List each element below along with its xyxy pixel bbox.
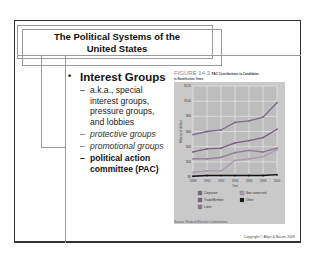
- legend-label: Trade/Member: [204, 198, 224, 202]
- y-tick-label: $20: [186, 160, 191, 164]
- sub-bullet-protective: – protective groups: [68, 129, 178, 140]
- sub-text: promotional groups: [90, 141, 164, 151]
- data-point: [276, 149, 278, 151]
- sub-text: pressure groups,: [90, 106, 178, 117]
- figure: FIGURE 14.3 PAC Contributions to Candida…: [174, 70, 286, 81]
- data-point: [220, 170, 222, 172]
- y-tick-label: $40: [186, 145, 191, 149]
- y-tick-label: $80: [186, 114, 191, 118]
- figure-label: FIGURE 14.3: [174, 70, 210, 76]
- slide-title: The Political Systems of the United Stat…: [22, 31, 212, 55]
- legend-label: Corporate: [204, 191, 218, 195]
- data-point: [262, 175, 264, 177]
- x-tick-label: 1996: [246, 179, 253, 183]
- line-chart: $0$20$40$60$80$100$120198819901992199419…: [174, 82, 285, 224]
- bullet-label: Interest Groups: [80, 71, 166, 83]
- legend-swatch: [240, 191, 244, 195]
- title-line-1: The Political Systems of the: [22, 31, 212, 43]
- data-point: [234, 142, 236, 144]
- data-point: [248, 175, 250, 177]
- legend-label: Labor: [204, 205, 212, 209]
- data-point: [276, 128, 278, 130]
- data-point: [262, 137, 264, 139]
- y-axis-label: Millions of dollars: [179, 119, 183, 143]
- data-point: [248, 140, 250, 142]
- data-point: [276, 102, 278, 104]
- sub-bullet-pac: – political action committee (PAC): [68, 153, 178, 174]
- legend-swatch: [198, 198, 202, 202]
- data-point: [220, 175, 222, 177]
- data-point: [220, 156, 222, 158]
- data-point: [234, 159, 236, 161]
- dash-marker: –: [80, 141, 85, 152]
- x-tick-label: 1998: [260, 179, 267, 183]
- figure-source: Source: Federal Election Commission.: [174, 220, 228, 224]
- data-point: [220, 129, 222, 131]
- bullet-interest-groups: • Interest Groups: [68, 71, 178, 83]
- sub-bullet-promotional: – promotional groups: [68, 141, 178, 152]
- data-point: [234, 122, 236, 124]
- x-tick-label: 2000: [274, 179, 281, 183]
- legend-label: Other: [246, 198, 254, 202]
- data-point: [206, 148, 208, 150]
- figure-subtitle: in Nonelection Years: [174, 77, 286, 81]
- data-point: [262, 156, 264, 158]
- x-tick-label: 1988: [190, 179, 197, 183]
- sub-text: protective groups: [90, 129, 156, 139]
- data-point: [262, 151, 264, 153]
- y-tick-label: $120: [184, 84, 191, 88]
- bullet-marker: •: [68, 71, 71, 81]
- data-point: [234, 175, 236, 177]
- side-box: [41, 55, 66, 148]
- data-point: [248, 150, 250, 152]
- legend-swatch: [198, 205, 202, 209]
- data-point: [192, 134, 194, 136]
- x-tick-label: 1992: [218, 179, 225, 183]
- sub-bullet-aka: – a.k.a., special interest groups, press…: [68, 85, 178, 127]
- sub-text: interest groups,: [90, 96, 178, 107]
- sub-text: committee (PAC): [90, 164, 178, 175]
- sub-text: and lobbies: [90, 117, 178, 128]
- x-tick-label: 1994: [232, 179, 239, 183]
- bullet-list: • Interest Groups – a.k.a., special inte…: [68, 71, 178, 176]
- data-point: [192, 172, 194, 174]
- data-point: [206, 131, 208, 133]
- y-tick-label: $60: [186, 130, 191, 134]
- chart-panel: $0$20$40$60$80$100$120198819901992199419…: [174, 82, 285, 224]
- data-point: [220, 147, 222, 149]
- data-point: [206, 175, 208, 177]
- title-line-2: United States: [22, 43, 212, 55]
- data-point: [248, 120, 250, 122]
- dash-marker: –: [80, 85, 85, 96]
- sub-text: a.k.a., special: [90, 85, 178, 96]
- data-point: [276, 174, 278, 176]
- data-point: [192, 158, 194, 160]
- data-point: [206, 170, 208, 172]
- legend-swatch: [240, 198, 244, 202]
- vertical-rule: [65, 55, 66, 243]
- legend-swatch: [198, 191, 202, 195]
- data-point: [234, 152, 236, 154]
- data-point: [192, 175, 194, 177]
- dash-marker: –: [80, 129, 85, 140]
- y-tick-label: $100: [184, 99, 191, 103]
- x-tick-label: 1990: [204, 179, 211, 183]
- x-axis-label: Year: [232, 184, 238, 188]
- figure-heading: FIGURE 14.3 PAC Contributions to Candida…: [174, 70, 286, 77]
- data-point: [206, 158, 208, 160]
- figure-title: PAC Contributions to Candidates: [212, 72, 259, 76]
- legend-label: Non-connected: [246, 191, 267, 195]
- sub-text: political action: [90, 153, 178, 164]
- copyright: Copyright © Allyn & Bacon 2009: [244, 235, 295, 239]
- data-point: [262, 116, 264, 118]
- data-point: [192, 151, 194, 153]
- dash-marker: –: [80, 153, 85, 164]
- data-point: [248, 158, 250, 160]
